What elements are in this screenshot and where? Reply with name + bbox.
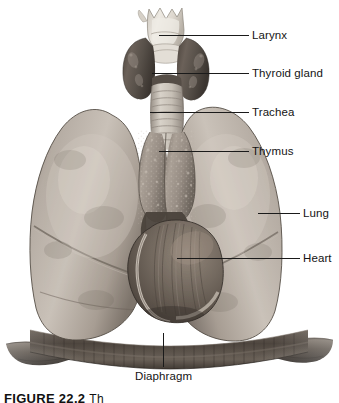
label-thyroid-gland: Thyroid gland [252,67,323,79]
figure-caption-text: Th [89,392,104,403]
figure-caption: FIGURE 22.2 Th [4,391,104,403]
label-diaphragm: Diaphragm [135,370,192,382]
label-layer: Larynx Thyroid gland Trachea Thymus Lung… [0,0,339,403]
figure-number: FIGURE 22.2 [4,391,85,403]
label-heart: Heart [303,252,332,264]
label-lung: Lung [303,207,329,219]
label-larynx: Larynx [252,29,287,41]
label-trachea: Trachea [252,106,294,118]
figure-thoracic-organs: Larynx Thyroid gland Trachea Thymus Lung… [0,0,339,403]
label-thymus: Thymus [252,145,294,157]
